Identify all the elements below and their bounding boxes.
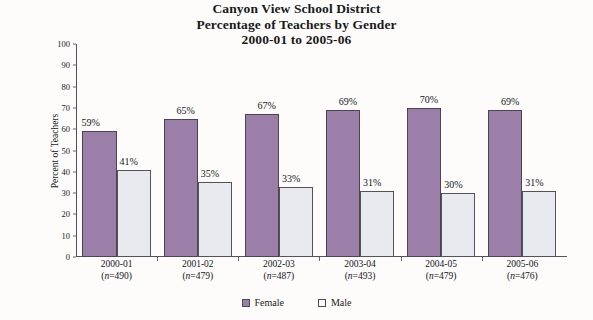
bar-group: 69%31% [319,44,400,257]
x-category-label: 2001-02(n=479) [157,259,238,282]
bar-value-label: 59% [81,117,99,128]
bar-group: 65%35% [157,44,238,257]
x-category-year: 2002-03 [263,259,295,269]
bar-value-label: 65% [176,105,194,116]
legend-item-female[interactable]: Female [242,297,284,308]
bar-value-label: 67% [258,100,276,111]
chart-title-line-1: Canyon View School District [0,1,593,17]
bar-group: 70%30% [401,44,482,257]
bar-value-label: 41% [120,156,138,167]
x-category-sample-size: (n=476) [482,271,563,283]
legend-label: Female [255,297,284,308]
bar-value-label: 33% [282,173,300,184]
bar-value-label: 31% [363,177,381,188]
bar-female: 59% [82,131,116,257]
chart-figure: Canyon View School District Percentage o… [0,0,593,320]
bar-female: 69% [488,110,522,257]
bar-male: 30% [441,193,475,257]
chart-title: Canyon View School District Percentage o… [0,1,593,48]
bar-male: 31% [360,191,394,257]
bar-female: 65% [164,119,198,257]
bar-value-label: 30% [444,179,462,190]
bar-group: 67%33% [238,44,319,257]
bar-male: 41% [117,170,151,257]
bar-female: 69% [326,110,360,257]
bar-value-label: 35% [201,168,219,179]
chart-title-line-2: Percentage of Teachers by Gender [0,17,593,33]
plot-area: Percent of Teachers 01020304050607080901… [76,44,563,257]
x-category-label: 2000-01(n=490) [76,259,157,282]
x-category-year: 2005-06 [507,259,539,269]
bar-value-label: 70% [420,94,438,105]
x-category-sample-size: (n=487) [238,271,319,283]
y-axis-title: Percent of Teachers [50,113,60,188]
bar-group: 59%41% [76,44,157,257]
bar-female: 67% [245,114,279,257]
x-category-sample-size: (n=493) [319,271,400,283]
x-category-sample-size: (n=479) [157,271,238,283]
bar-value-label: 31% [525,177,543,188]
x-category-year: 2000-01 [101,259,133,269]
legend-label: Male [331,297,352,308]
x-category-sample-size: (n=479) [401,271,482,283]
x-category-sample-size: (n=490) [76,271,157,283]
bar-male: 35% [198,182,232,257]
x-category-year: 2004-05 [425,259,457,269]
x-axis-labels: 2000-01(n=490)2001-02(n=479)2002-03(n=48… [76,259,563,282]
x-category-year: 2001-02 [182,259,214,269]
x-category-label: 2004-05(n=479) [401,259,482,282]
x-category-year: 2003-04 [344,259,376,269]
x-category-label: 2005-06(n=476) [482,259,563,282]
bar-female: 70% [407,108,441,257]
bar-group: 69%31% [482,44,563,257]
bar-value-label: 69% [339,96,357,107]
legend-item-male[interactable]: Male [318,297,352,308]
bar-male: 31% [522,191,556,257]
legend-swatch-male [318,299,326,307]
bar-value-label: 69% [501,96,519,107]
legend-swatch-female [242,299,250,307]
x-category-label: 2003-04(n=493) [319,259,400,282]
x-category-label: 2002-03(n=487) [238,259,319,282]
bar-male: 33% [279,187,313,257]
chart-legend: FemaleMale [0,297,593,308]
bar-groups: 59%41%65%35%67%33%69%31%70%30%69%31% [76,44,563,257]
